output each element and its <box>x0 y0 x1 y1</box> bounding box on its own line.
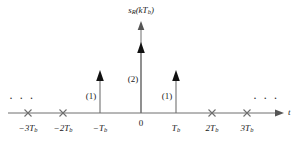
y-axis-label-rest: (kT <box>136 5 148 15</box>
x-tick-base-minus2Tb: −2T <box>54 123 70 133</box>
impulse-zero <box>137 42 145 113</box>
right-ellipsis: · · · <box>253 92 279 104</box>
impulse-plus-Tb <box>172 70 180 113</box>
y-axis-label-close: ) <box>151 5 154 15</box>
x-tick-sub-plus2Tb: b <box>215 126 218 133</box>
x-axis-arrowhead <box>275 110 284 117</box>
y-axis-label: sR(kTb) <box>128 6 154 16</box>
x-tick-base-plus3Tb: 3T <box>241 123 251 133</box>
x-tick-base-minusTb: −T <box>93 123 104 133</box>
x-tick-label-plusTb: Tb <box>172 124 180 134</box>
x-tick-sub-minusTb: b <box>104 126 107 133</box>
y-axis-arrowhead <box>138 21 145 30</box>
impulse-train-figure: sR(kTb) t · · · · · · (1) (2) (1) −3Tb −… <box>0 0 299 146</box>
amplitude-label-minus-Tb: (1) <box>86 92 97 101</box>
amplitude-label-zero: (2) <box>128 75 139 84</box>
x-tick-label-zero: 0 <box>139 119 144 128</box>
plot-canvas <box>0 0 299 146</box>
x-tick-label-minus2Tb: −2Tb <box>54 124 73 134</box>
x-tick-label-plus3Tb: 3Tb <box>241 124 254 134</box>
left-ellipsis: · · · <box>9 92 35 104</box>
x-axis-label: t <box>288 108 291 117</box>
x-tick-label-plus2Tb: 2Tb <box>206 124 219 134</box>
x-tick-base-minus3Tb: −3T <box>19 123 35 133</box>
x-tick-sub-minus2Tb: b <box>69 126 72 133</box>
x-tick-sub-plus3Tb: b <box>250 126 253 133</box>
x-tick-sub-minus3Tb: b <box>34 126 37 133</box>
x-tick-label-minus3Tb: −3Tb <box>19 124 38 134</box>
x-tick-sub-plusTb: b <box>177 126 180 133</box>
amplitude-label-plus-Tb: (1) <box>162 92 173 101</box>
impulse-minus-Tb <box>96 70 104 113</box>
x-tick-base-plus2Tb: 2T <box>206 123 216 133</box>
x-tick-label-minusTb: −Tb <box>93 124 107 134</box>
